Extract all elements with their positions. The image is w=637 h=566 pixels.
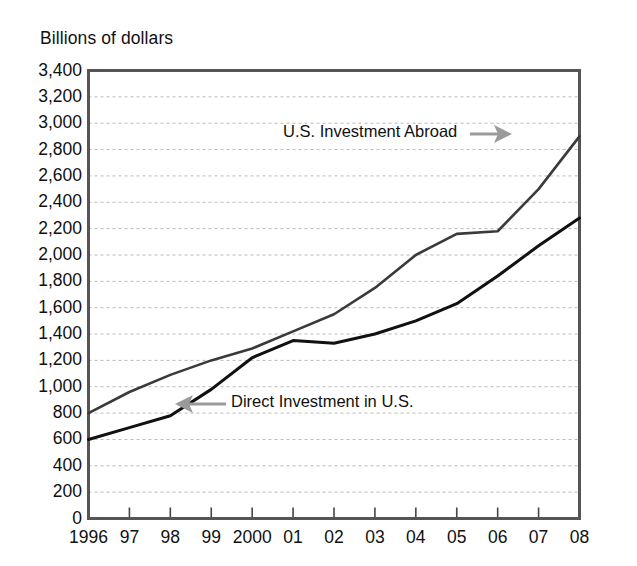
- annotation-arrows: [175, 125, 512, 413]
- x-axis-tick-marks: [129, 508, 579, 519]
- series-line-us-investment-abroad: [89, 136, 580, 413]
- chart-figure: Billions of dollars 02004006008001,0001,…: [0, 0, 637, 566]
- gridlines: [89, 97, 580, 492]
- annotation-us-investment-abroad: U.S. Investment Abroad: [283, 122, 457, 141]
- plot-area: [0, 0, 637, 566]
- annotation-direct-investment-in-us: Direct Investment in U.S.: [231, 392, 413, 411]
